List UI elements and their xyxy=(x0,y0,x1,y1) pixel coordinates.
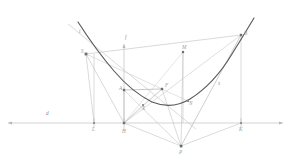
label-directrix-d: d xyxy=(46,110,49,116)
canvas-background xyxy=(0,0,291,161)
label-segment-s: s xyxy=(218,80,220,86)
point-marker-K[interactable] xyxy=(240,122,242,124)
label-point-H: H xyxy=(121,128,126,134)
geometry-figure: d f t s S A F M B N X L H K P xyxy=(0,0,291,161)
point-marker-F[interactable] xyxy=(161,88,163,90)
label-point-N: N xyxy=(188,100,193,106)
point-marker-L[interactable] xyxy=(93,122,95,124)
point-marker-M[interactable] xyxy=(182,51,184,53)
point-marker-A[interactable] xyxy=(123,89,125,91)
point-marker-B[interactable] xyxy=(240,34,242,36)
label-point-S: S xyxy=(81,48,84,54)
point-marker-P[interactable] xyxy=(180,145,183,148)
point-marker-S[interactable] xyxy=(85,53,88,56)
label-point-K: K xyxy=(238,126,243,132)
label-point-M: M xyxy=(181,44,187,50)
point-marker-H[interactable] xyxy=(123,122,125,124)
geometry-canvas: d f t s S A F M B N X L H K P xyxy=(0,0,291,161)
label-point-L: L xyxy=(91,126,95,132)
